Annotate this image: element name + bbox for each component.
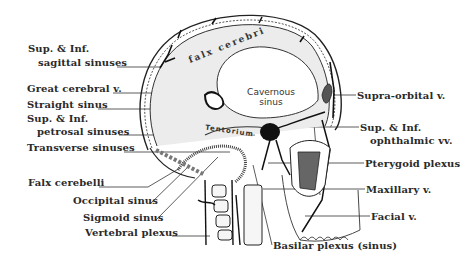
anatomical-diagram: falx cerebri Cavernous sinus Tentorium S… (0, 0, 474, 269)
label-ophthalmic-vv: ophthalmic vv. (370, 135, 453, 146)
label-sup-inf-ophthalmic-1: Sup. & Inf. (360, 122, 421, 133)
label-sigmoid-sinus: Sigmoid sinus (83, 212, 163, 223)
label-straight-sinus: Straight sinus (27, 99, 108, 110)
cavernous-line-1: Cavernous (246, 87, 296, 97)
label-falx-cerebelli: Falx cerebelli (28, 177, 105, 188)
label-facial-v: Facial v. (371, 211, 417, 222)
cavernous-sinus-label: Cavernous sinus (246, 87, 296, 107)
label-petrosal-sinuses: petrosal sinuses (37, 126, 130, 137)
label-maxillary-v: Maxillary v. (366, 184, 431, 195)
label-sup-inf-petrosal-1: Sup. & Inf. (27, 113, 88, 124)
cavernous-line-2: sinus (246, 97, 296, 107)
label-basilar-plexus: Basilar plexus (sinus) (273, 240, 397, 251)
label-transverse-sinuses: Transverse sinuses (27, 142, 135, 153)
label-great-cerebral-v: Great cerebral v. (27, 83, 122, 94)
label-pterygoid-plexus: Pterygoid plexus (365, 158, 460, 169)
label-supra-orbital-v: Supra-orbital v. (357, 90, 445, 101)
label-vertebral-plexus: Vertebral plexus (85, 227, 178, 238)
label-sup-inf-sagittal-1: Sup. & Inf. (28, 43, 89, 54)
label-sagittal-sinuses: sagittal sinuses (38, 57, 127, 68)
label-occipital-sinus: Occipital sinus (73, 195, 158, 206)
